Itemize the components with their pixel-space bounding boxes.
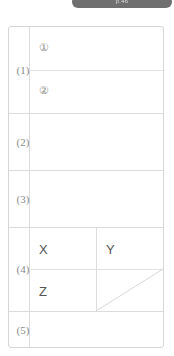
row-4-cell-y: Y	[106, 243, 115, 256]
row-label-3: (3)	[9, 193, 37, 205]
worksheet-row-4[interactable]: (4) X Y Z	[9, 227, 163, 311]
worksheet-row-5[interactable]: (5)	[9, 311, 163, 347]
row-4-cell-x: X	[39, 243, 48, 256]
row-label-2: (2)	[9, 136, 37, 148]
top-banner: p.46	[72, 0, 172, 8]
worksheet-grid: (1) ① ② (2) (3) (4) X Y Z	[9, 27, 163, 347]
top-banner-label: p.46	[72, 0, 172, 4]
row-label-5: (5)	[9, 324, 37, 336]
row-1-mark-2: ②	[39, 85, 49, 96]
worksheet-row-2[interactable]: (2)	[9, 113, 163, 170]
worksheet-row-3[interactable]: (3)	[9, 170, 163, 227]
worksheet-row-1[interactable]: (1) ① ②	[9, 27, 163, 113]
row-4-cell-z: Z	[39, 285, 47, 298]
worksheet-table: (1) ① ② (2) (3) (4) X Y Z	[8, 26, 164, 348]
row-4-diagonal-line	[96, 269, 163, 311]
row-1-mark-1: ①	[39, 42, 49, 53]
row-1-subdivider	[29, 70, 163, 71]
